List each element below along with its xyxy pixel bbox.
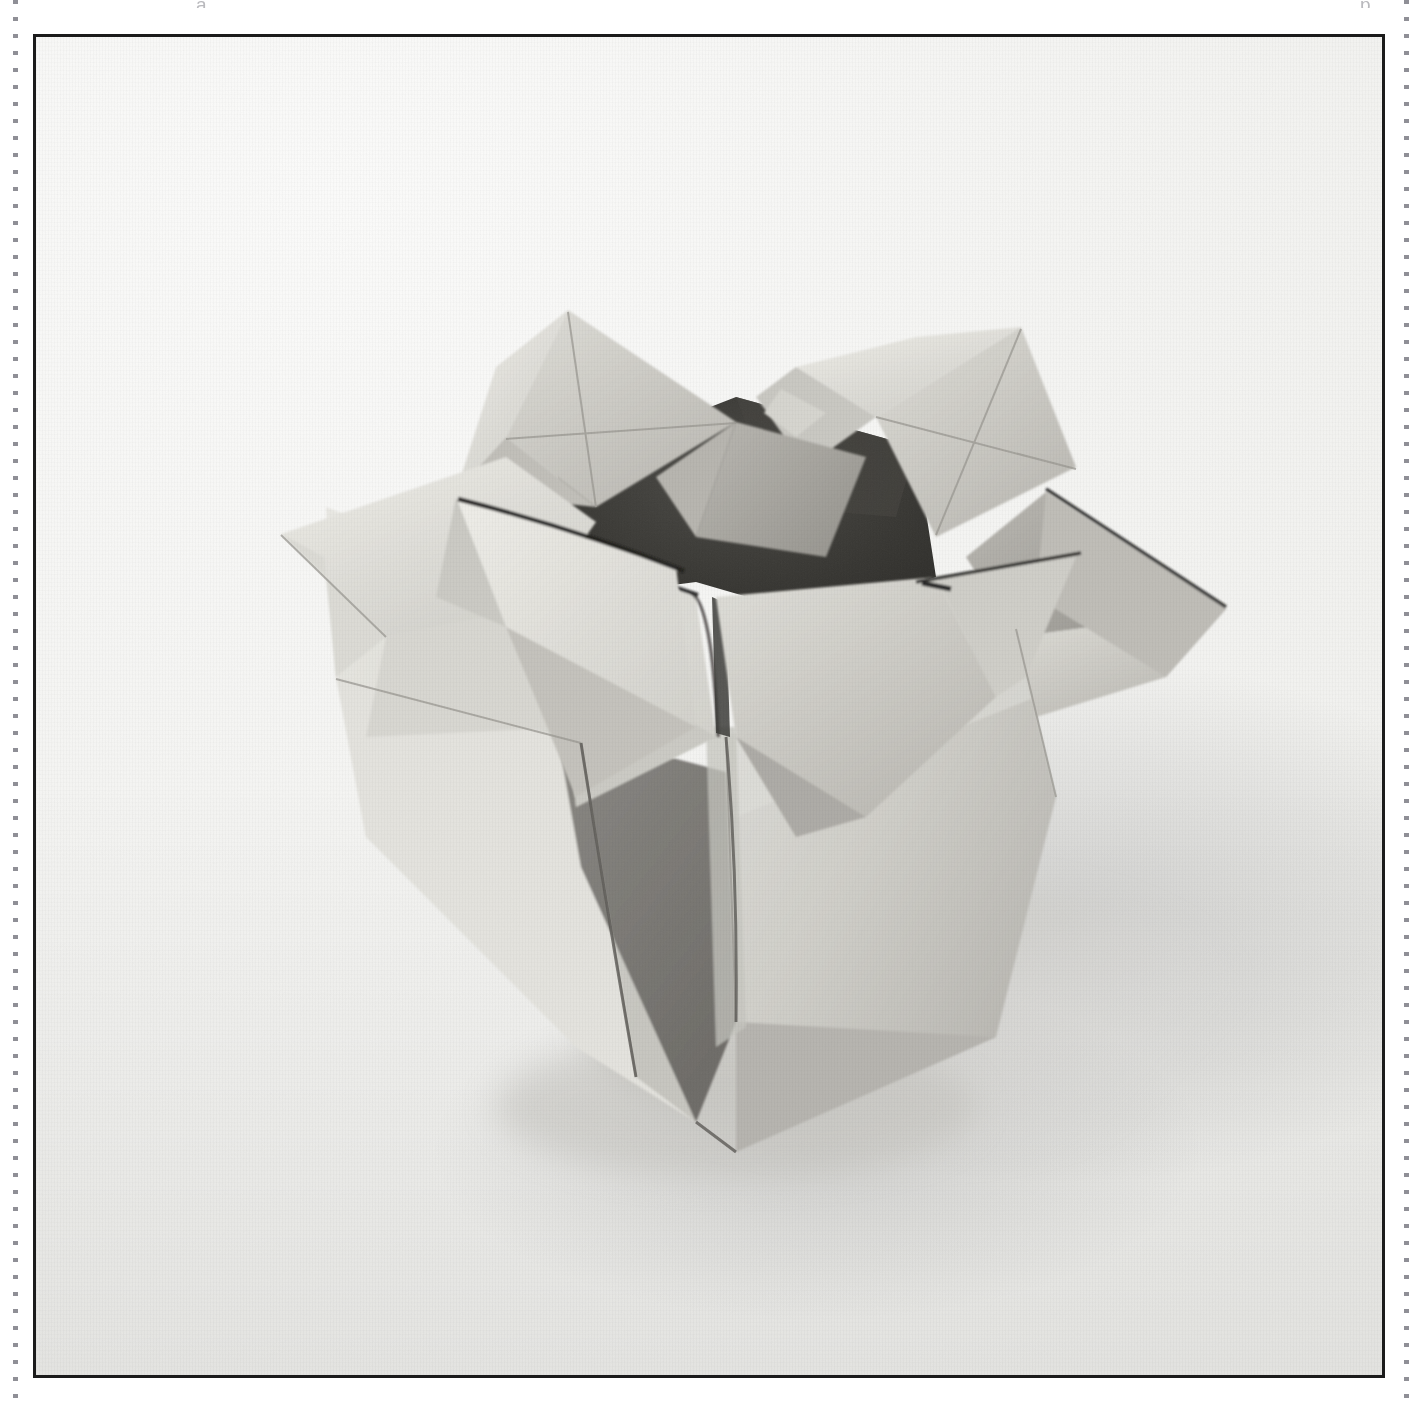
figure-frame (33, 34, 1385, 1378)
dotted-crop-rule-left (13, 0, 18, 1402)
caption-remnant-left: a (196, 0, 207, 8)
page-canvas: a p (0, 0, 1416, 1402)
caption-remnant-right: p (1360, 0, 1371, 8)
photographic-plate (36, 37, 1382, 1375)
origami-box-illustration (36, 37, 1382, 1375)
photo-grain-overlay (36, 37, 1382, 1375)
dotted-crop-rule-right (1404, 0, 1409, 1402)
